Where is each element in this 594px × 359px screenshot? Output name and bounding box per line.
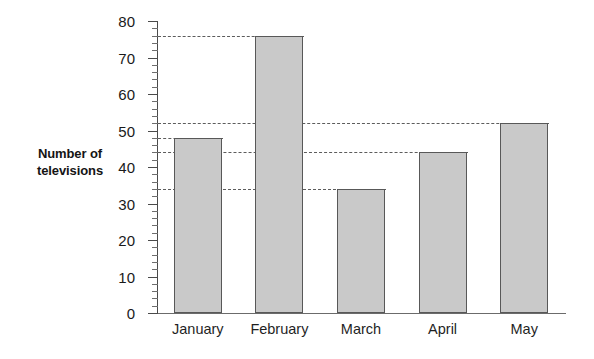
bar — [337, 189, 385, 313]
y-axis-minor-tick — [152, 247, 158, 248]
y-axis-tick-label: 80 — [118, 13, 135, 30]
y-axis-tick-label: 40 — [118, 159, 135, 176]
y-axis-title: Number of televisions — [14, 146, 126, 179]
y-axis-major-tick: 80 — [148, 21, 158, 22]
y-axis-major-tick: 20 — [148, 240, 158, 241]
y-axis-minor-tick — [152, 109, 158, 110]
y-axis-minor-tick — [152, 116, 158, 117]
y-axis-minor-tick — [152, 211, 158, 212]
bar — [419, 152, 467, 313]
y-axis-minor-tick — [152, 218, 158, 219]
y-axis-tick-label: 70 — [118, 49, 135, 66]
y-axis-minor-tick — [152, 65, 158, 66]
y-axis-minor-tick — [152, 306, 158, 307]
y-axis-tick-label: 0 — [127, 305, 135, 322]
x-axis-tick-label: April — [428, 321, 457, 337]
y-axis-tick-label: 10 — [118, 268, 135, 285]
y-axis-minor-tick — [152, 225, 158, 226]
y-axis-tick-label: 50 — [118, 122, 135, 139]
y-axis-tick-label: 20 — [118, 232, 135, 249]
y-axis-minor-tick — [152, 72, 158, 73]
y-axis-title-line-2: televisions — [14, 163, 126, 180]
y-axis-tick-label: 60 — [118, 86, 135, 103]
y-axis-major-tick: 50 — [148, 131, 158, 132]
y-axis-minor-tick — [152, 196, 158, 197]
y-axis-minor-tick — [152, 298, 158, 299]
x-axis-tick-label: February — [250, 321, 308, 337]
y-axis-tick-label: 30 — [118, 195, 135, 212]
y-axis-major-tick: 70 — [148, 58, 158, 59]
y-axis-minor-tick — [152, 101, 158, 102]
y-axis-title-line-1: Number of — [14, 146, 126, 163]
bar — [255, 36, 303, 313]
y-axis-major-tick: 30 — [148, 204, 158, 205]
y-axis-minor-tick — [152, 43, 158, 44]
bar-chart-figure: Number of televisions 01020304050607080 … — [0, 0, 594, 359]
y-axis-minor-tick — [152, 174, 158, 175]
bar — [174, 138, 222, 313]
y-axis-minor-tick — [152, 145, 158, 146]
bar — [500, 123, 548, 313]
y-axis-minor-tick — [152, 79, 158, 80]
y-axis-minor-tick — [152, 284, 158, 285]
y-axis-major-tick: 60 — [148, 94, 158, 95]
x-axis-line — [148, 313, 566, 314]
y-axis-major-tick: 0 — [148, 313, 158, 314]
x-axis-tick-label: January — [172, 321, 224, 337]
y-axis-minor-tick — [152, 182, 158, 183]
y-axis-minor-tick — [152, 269, 158, 270]
y-axis-minor-tick — [152, 28, 158, 29]
plot-area: 01020304050607080 JanuaryFebruaryMarchAp… — [157, 21, 565, 313]
y-axis-minor-tick — [152, 291, 158, 292]
reference-line — [158, 123, 549, 124]
y-axis-minor-tick — [152, 160, 158, 161]
y-axis-minor-tick — [152, 87, 158, 88]
y-axis-minor-tick — [152, 255, 158, 256]
x-axis-tick-label: March — [341, 321, 381, 337]
y-axis-major-tick: 10 — [148, 277, 158, 278]
y-axis-minor-tick — [152, 233, 158, 234]
y-axis-major-tick: 40 — [148, 167, 158, 168]
y-axis-minor-tick — [152, 50, 158, 51]
x-axis-tick-label: May — [510, 321, 537, 337]
y-axis-minor-tick — [152, 262, 158, 263]
